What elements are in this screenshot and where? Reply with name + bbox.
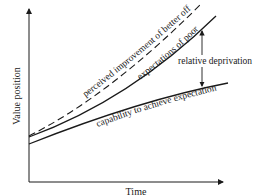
y-axis-label: Value position <box>11 67 22 125</box>
x-axis-label: Time <box>126 186 147 196</box>
relative-deprivation-diagram: Time Value position relative deprivation… <box>0 0 273 196</box>
relative-deprivation-label: relative deprivation <box>178 56 252 66</box>
capability-label: capability to achieve expectation <box>95 83 218 129</box>
